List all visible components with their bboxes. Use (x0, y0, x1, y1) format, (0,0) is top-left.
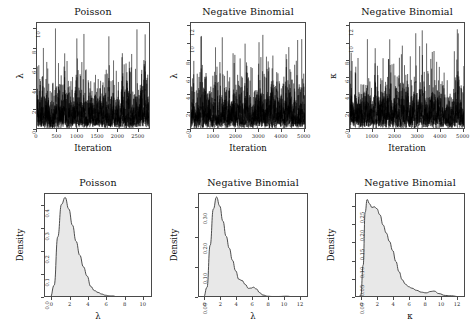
x-tick-label: 2 (376, 301, 379, 307)
x-tickmark (393, 297, 394, 300)
panel-title: Negative Binomial (315, 177, 476, 188)
x-tick-label: 12 (454, 301, 461, 307)
y-tickmark (352, 242, 355, 243)
y-tickmark (352, 206, 355, 207)
x-tickmark (425, 297, 426, 300)
y-tickmark (352, 261, 355, 262)
y-tickmark (352, 279, 355, 280)
y-tick-label: 0.25 (359, 212, 365, 224)
y-tick-label: 0.15 (359, 248, 365, 260)
x-tickmark (361, 297, 362, 300)
x-tickmark (457, 297, 458, 300)
x-tickmark (409, 297, 410, 300)
y-tick-label: 0.05 (359, 285, 365, 297)
x-tickmark (441, 297, 442, 300)
x-tick-label: 10 (438, 301, 445, 307)
x-tick-label: 8 (423, 301, 426, 307)
x-tick-label: 6 (408, 301, 411, 307)
panel-density-negbin-kappa: Negative Binomial0246810120.000.050.100.… (0, 0, 476, 332)
y-tickmark (352, 224, 355, 225)
y-axis-label: Density (326, 229, 336, 262)
x-tickmark (377, 297, 378, 300)
y-tickmark (352, 297, 355, 298)
x-tick-label: 4 (392, 301, 395, 307)
plot-area-density-negbin-kappa (355, 193, 465, 297)
y-tick-label: 0.20 (359, 230, 365, 242)
mcmc-diagnostics-figure: Poisson050010001500200025000246810Iterat… (0, 0, 476, 332)
x-axis-label: κ (355, 311, 465, 321)
y-tick-label: 0.10 (359, 267, 365, 279)
